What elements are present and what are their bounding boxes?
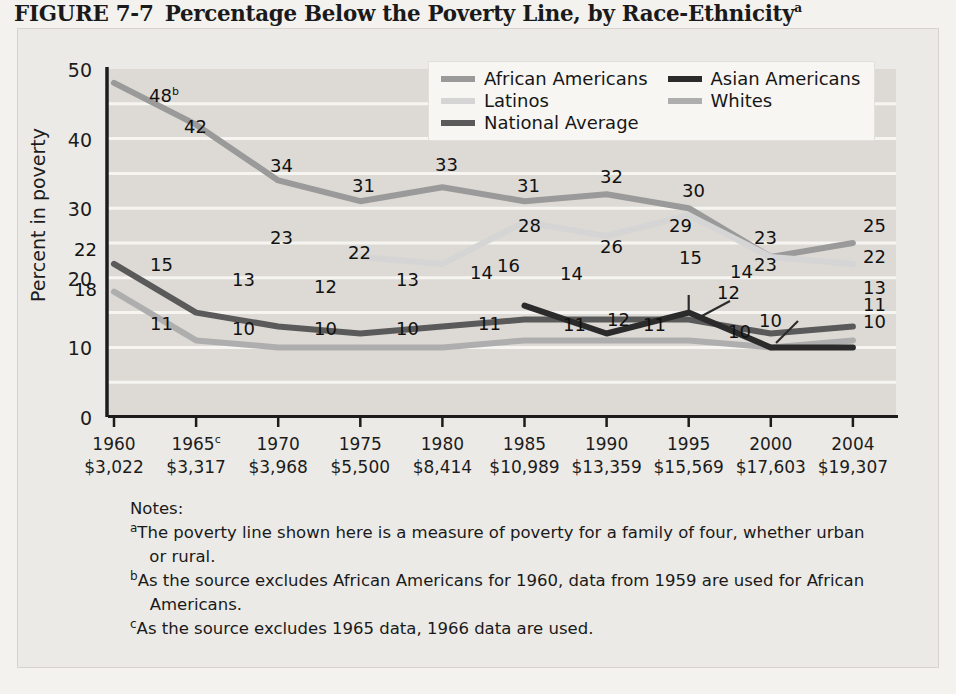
legend-swatch-african-americans-icon	[441, 76, 475, 82]
data-label-whites-1995: 11	[643, 314, 666, 335]
legend-swatch-whites-icon	[668, 98, 702, 104]
legend-label-national-average: National Average	[484, 112, 639, 133]
data-label-whites-1970: 10	[232, 318, 255, 339]
data-label-african-americans-1985: 31	[517, 175, 540, 196]
notes-heading: Notes:	[130, 497, 920, 520]
data-label-national-average-1970: 13	[232, 269, 255, 290]
x-tick-2004: 2004 $19,307	[807, 433, 899, 479]
data-label-african-americans-2004: 25	[863, 215, 886, 236]
data-label-african-americans-1975: 31	[352, 175, 375, 196]
legend-swatch-asian-americans-icon	[668, 76, 702, 82]
note-mark-c: c	[130, 617, 137, 631]
data-label-whites-1975: 10	[314, 318, 337, 339]
data-label-whites-1965: 11	[150, 313, 173, 334]
legend-swatch-national-average-icon	[441, 120, 475, 126]
data-label-national-average-2000: 12	[717, 282, 740, 303]
data-label-african-americans-1970: 34	[270, 155, 293, 176]
page-title: FIGURE 7-7Percentage Below the Poverty L…	[14, 0, 802, 26]
data-label-whites-2000: 10	[728, 321, 751, 342]
legend-label-whites: Whites	[711, 90, 773, 111]
data-label-national-average-1975: 12	[314, 276, 337, 297]
figure-number: FIGURE 7-7	[14, 0, 154, 26]
data-label-african-americans-1990: 32	[600, 166, 623, 187]
legend-label-asian-americans: Asian Americans	[711, 68, 861, 89]
data-label-latinos-2000: 23	[754, 254, 777, 275]
y-tick-50: 50	[40, 59, 92, 81]
note-c-line1: As the source excludes 1965 data, 1966 d…	[137, 619, 594, 638]
x-tick-1960: 1960 $3,022	[68, 433, 160, 479]
data-label-whites-1990: 11	[563, 314, 586, 335]
data-label-national-average-1995: 14	[730, 261, 753, 282]
data-label-national-average-1965: 15	[150, 254, 173, 275]
data-label-asian-americans-2000: 10	[759, 310, 782, 331]
legend-label-african-americans: African Americans	[484, 68, 648, 89]
chart-legend: African Americans Asian Americans Latino…	[428, 61, 875, 141]
legend-item-national-average[interactable]: National Average	[441, 112, 648, 133]
note-a-line1: The poverty line shown here is a measure…	[137, 523, 864, 542]
x-tick-1965: 1965c $3,317	[150, 433, 242, 479]
x-tick-1990: 1990 $13,359	[561, 433, 653, 479]
note-item-b: b As the source excludes African America…	[130, 569, 920, 616]
legend-item-african-americans[interactable]: African Americans	[441, 68, 648, 89]
data-label-national-average-1980: 13	[396, 269, 419, 290]
y-tick-0: 0	[40, 407, 92, 429]
note-text-c: As the source excludes 1965 data, 1966 d…	[137, 617, 920, 640]
chart-region: Percent in poverty 50 40 30 20 10 0	[18, 29, 940, 489]
figure-title-superscript: a	[794, 0, 802, 15]
note-mark-b: b	[130, 569, 138, 583]
y-tick-10: 10	[40, 337, 92, 359]
note-text-b: As the source excludes African Americans…	[138, 569, 920, 616]
data-label-african-americans-2000: 23	[754, 227, 777, 248]
x-tick-1985: 1985 $10,989	[479, 433, 571, 479]
x-axis	[108, 415, 908, 429]
data-label-national-average-1990: 14	[560, 263, 583, 284]
data-label-national-average-1960: 22	[74, 239, 97, 260]
note-text-a: The poverty line shown here is a measure…	[137, 521, 920, 568]
data-label-african-americans-1965: 42	[184, 116, 207, 137]
data-label-whites-1985: 11	[478, 313, 501, 334]
data-label-african-americans-1960: 48b	[149, 85, 179, 106]
note-b-line1: As the source excludes African Americans…	[138, 571, 865, 590]
data-label-latinos-1975: 23	[270, 227, 293, 248]
data-label-whites-1960: 18	[74, 279, 97, 300]
x-tick-2000: 2000 $17,603	[725, 433, 817, 479]
notes-section: Notes: a The poverty line shown here is …	[130, 497, 920, 641]
figure-page: FIGURE 7-7Percentage Below the Poverty L…	[0, 0, 956, 694]
figure-panel: Percent in poverty 50 40 30 20 10 0	[17, 28, 939, 668]
note-a-line2: or rural.	[137, 545, 920, 568]
x-tick-1980: 1980 $8,414	[396, 433, 488, 479]
y-axis	[104, 67, 110, 419]
note-item-c: c As the source excludes 1965 data, 1966…	[130, 617, 920, 640]
note-item-a: a The poverty line shown here is a measu…	[130, 521, 920, 568]
data-label-african-americans-1995: 30	[682, 180, 705, 201]
data-label-asian-americans-1985: 16	[497, 255, 520, 276]
data-label-latinos-1980: 22	[348, 242, 371, 263]
data-label-whites-1980: 10	[396, 318, 419, 339]
legend-item-latinos[interactable]: Latinos	[441, 90, 648, 111]
data-label-whites-2004: 11	[863, 294, 886, 315]
data-label-latinos-2004: 22	[863, 246, 886, 267]
x-tick-1970: 1970 $3,968	[232, 433, 324, 479]
legend-item-whites[interactable]: Whites	[668, 90, 861, 111]
x-tick-1995: 1995 $15,569	[643, 433, 735, 479]
data-label-latinos-1995: 29	[669, 215, 692, 236]
data-label-national-average-1985: 14	[470, 262, 493, 283]
note-b-line2: Americans.	[138, 593, 920, 616]
data-label-asian-americans-1990: 12	[607, 309, 630, 330]
data-label-asian-americans-1995: 15	[679, 247, 702, 268]
y-tick-30: 30	[40, 198, 92, 220]
legend-item-asian-americans[interactable]: Asian Americans	[668, 68, 861, 89]
data-label-african-americans-1980: 33	[435, 154, 458, 175]
y-tick-40: 40	[40, 129, 92, 151]
legend-label-latinos: Latinos	[484, 90, 549, 111]
legend-swatch-latinos-icon	[441, 98, 475, 104]
figure-title-text: Percentage Below the Poverty Line, by Ra…	[165, 0, 795, 26]
data-label-latinos-1985: 28	[518, 215, 541, 236]
data-label-latinos-1990: 26	[600, 236, 623, 257]
x-tick-1975: 1975 $5,500	[314, 433, 406, 479]
